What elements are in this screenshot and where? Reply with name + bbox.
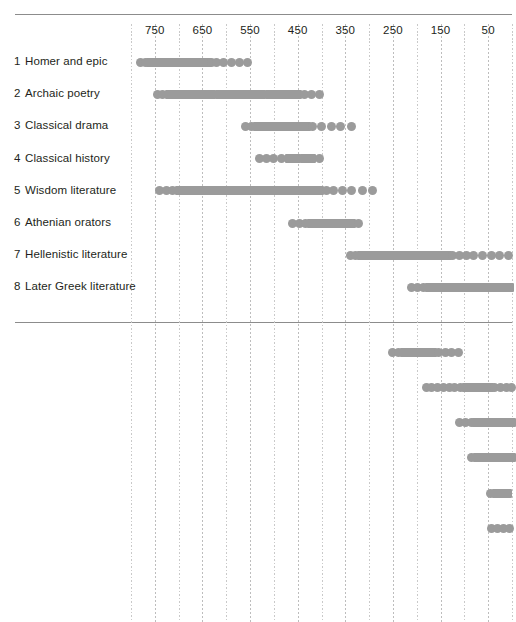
- gridline-300: [369, 24, 370, 622]
- data-marker: [503, 489, 512, 498]
- data-marker: [495, 251, 504, 260]
- data-marker: [504, 251, 513, 260]
- data-marker: [347, 122, 356, 131]
- row-label-5: 5Wisdom literature: [14, 184, 116, 196]
- gridline-450: [298, 24, 299, 622]
- row-label-4: 4Classical history: [14, 152, 110, 164]
- data-marker: [315, 90, 324, 99]
- gridline-700: [179, 24, 180, 622]
- row-label-8: 8Later Greek literature: [14, 280, 136, 292]
- data-marker: [243, 58, 252, 67]
- row-number-1: 1: [14, 55, 25, 67]
- data-marker: [354, 219, 363, 228]
- data-marker: [358, 186, 367, 195]
- data-marker: [507, 418, 516, 427]
- row-label-1: 1Homer and epic: [14, 55, 108, 67]
- x-axis-tick-label-550: 550: [240, 24, 260, 36]
- gridline-350: [345, 24, 346, 622]
- x-axis-tick-label-350: 350: [335, 24, 355, 36]
- data-marker: [507, 383, 516, 392]
- data-marker: [454, 348, 463, 357]
- x-axis-tick-label-150: 150: [431, 24, 451, 36]
- data-marker: [315, 154, 324, 163]
- data-marker: [507, 453, 516, 462]
- gridline-100: [464, 24, 465, 622]
- row-number-4: 4: [14, 152, 25, 164]
- gridline-250: [393, 24, 394, 622]
- row-label-6: 6Athenian orators: [14, 216, 111, 228]
- gridline-150: [441, 24, 442, 622]
- gridline-600: [226, 24, 227, 622]
- row-number-3: 3: [14, 119, 25, 131]
- gridline-650: [202, 24, 203, 622]
- x-axis-tick-label-650: 650: [193, 24, 213, 36]
- row-label-text-7: Hellenistic literature: [25, 248, 128, 260]
- row-label-text-4: Classical history: [25, 152, 110, 164]
- gridline-750: [155, 24, 156, 622]
- data-marker: [317, 122, 326, 131]
- data-marker: [347, 186, 356, 195]
- x-axis-tick-label-50: 50: [482, 24, 495, 36]
- row-label-text-8: Later Greek literature: [25, 280, 136, 292]
- gridline-200: [417, 24, 418, 622]
- row-number-7: 7: [14, 248, 25, 260]
- row-number-8: 8: [14, 280, 25, 292]
- x-axis-tick-label-750: 750: [145, 24, 165, 36]
- row-label-2: 2Archaic poetry: [14, 87, 100, 99]
- x-axis-tick-label-450: 450: [288, 24, 308, 36]
- row-number-2: 2: [14, 87, 25, 99]
- x-axis-tick-label-250: 250: [383, 24, 403, 36]
- row-label-text-1: Homer and epic: [25, 55, 108, 67]
- row-label-text-6: Athenian orators: [25, 216, 111, 228]
- gridline-550: [250, 24, 251, 622]
- row-label-3: 3Classical drama: [14, 119, 108, 131]
- row-number-6: 6: [14, 216, 25, 228]
- row-label-text-3: Classical drama: [25, 119, 108, 131]
- row-number-5: 5: [14, 184, 25, 196]
- data-marker: [327, 122, 336, 131]
- data-marker: [478, 251, 487, 260]
- data-marker: [505, 524, 514, 533]
- gridline-0: [512, 24, 513, 622]
- data-marker: [336, 122, 345, 131]
- gridline-500: [274, 24, 275, 622]
- row-label-text-2: Archaic poetry: [25, 87, 100, 99]
- data-marker: [368, 186, 377, 195]
- row-label-7: 7Hellenistic literature: [14, 248, 128, 260]
- row-label-text-5: Wisdom literature: [25, 184, 116, 196]
- gridline-400: [322, 24, 323, 622]
- data-marker: [505, 283, 514, 292]
- gridline-800: [131, 24, 132, 622]
